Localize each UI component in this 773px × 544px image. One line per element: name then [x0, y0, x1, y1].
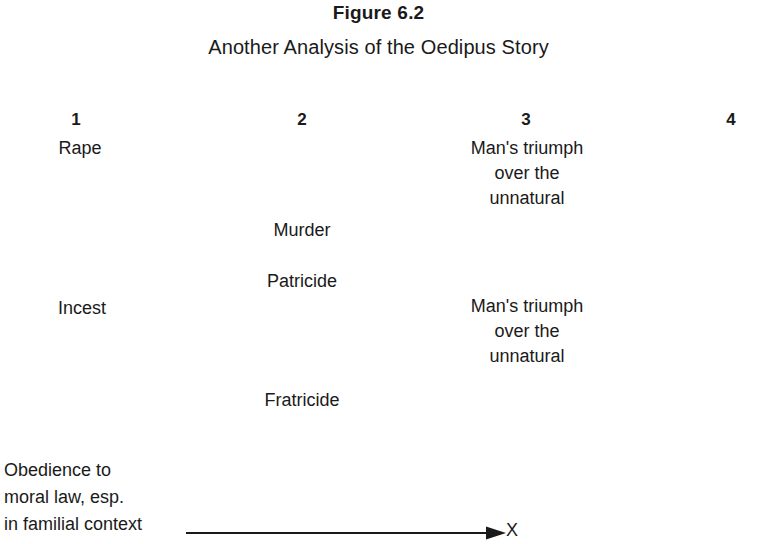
column-header-2: 2: [272, 110, 332, 130]
arrow-right-icon: [186, 520, 506, 544]
figure-canvas: Figure 6.2 Another Analysis of the Oedip…: [0, 0, 773, 544]
entry-murder: Murder: [242, 218, 362, 243]
entry-incest: Incest: [32, 296, 132, 321]
entry-mans-triumph-lower: Man's triumph over the unnatural: [442, 294, 612, 369]
column-header-3: 3: [496, 110, 556, 130]
column-header-4: 4: [701, 110, 761, 130]
column-header-1: 1: [46, 110, 106, 130]
entry-mans-triumph-upper: Man's triumph over the unnatural: [442, 136, 612, 211]
entry-fratricide: Fratricide: [242, 388, 362, 413]
entry-patricide: Patricide: [242, 269, 362, 294]
axis-label: Obedience to moral law, esp. in familial…: [4, 457, 142, 538]
figure-number: Figure 6.2: [0, 2, 757, 24]
figure-subtitle: Another Analysis of the Oedipus Story: [0, 35, 757, 59]
entry-rape: Rape: [30, 136, 130, 161]
axis-endpoint-label: X: [506, 519, 518, 541]
